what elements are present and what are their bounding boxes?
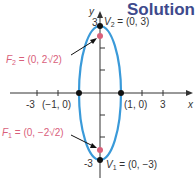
right-vertex-label: (1, 0) — [124, 99, 147, 110]
f2-label: F2 = (0, 2√2) — [6, 54, 62, 66]
f2-arrowhead-icon — [90, 38, 97, 44]
v2-label: V2 = (0, 3) — [104, 16, 149, 28]
minor-left-point — [76, 90, 82, 96]
x-tick-3: 3 — [160, 99, 166, 110]
y-axis-arrow-icon — [97, 11, 103, 18]
f1-label: F1 = (0, −2√2) — [2, 127, 64, 139]
y-tick-3: 3 — [92, 17, 98, 28]
focus-f2-point — [97, 33, 103, 39]
x-axis-label: x — [187, 99, 194, 110]
vertex-v2-point — [97, 23, 103, 29]
left-vertex-label: (−1, 0) — [42, 99, 71, 110]
x-axis-arrow-icon — [186, 90, 193, 96]
f1-arrowhead-icon — [90, 143, 97, 148]
focus-f1-point — [97, 147, 103, 153]
ellipse-diagram: y x -3 3 3 -3 V2 = (0, 3) V1 = (0, −3) F… — [0, 0, 195, 182]
minor-right-point — [118, 90, 124, 96]
y-tick-neg3: -3 — [84, 158, 93, 169]
v1-label: V1 = (0, −3) — [106, 159, 157, 171]
y-axis-label: y — [88, 6, 95, 17]
vertex-v1-point — [97, 157, 103, 163]
x-tick-neg3: -3 — [26, 99, 35, 110]
